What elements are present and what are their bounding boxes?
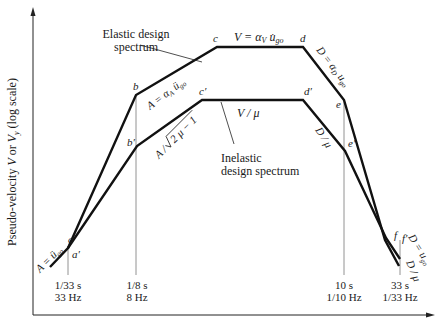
point-c: c [213, 32, 218, 44]
point-a-prime: a′ [72, 248, 81, 260]
period-1-33s: 1/33 s [55, 279, 82, 291]
y-axis-label: Pseudo-velocity V or Vy (log scale) [5, 78, 21, 246]
svg-text:A /: A / [151, 143, 170, 162]
point-d: d [300, 32, 306, 44]
period-1-8s: 1/8 s [126, 279, 147, 291]
label-ground-acceleration: A = ügo [32, 243, 66, 277]
label-elastic-acceleration: A = αA ügo [143, 75, 188, 114]
period-33s: 33 s [391, 279, 409, 291]
point-b: b [133, 80, 139, 92]
label-elastic-velocity: V = αV u̇go [234, 30, 283, 45]
x-axis-arrow-icon [426, 313, 435, 318]
point-e-prime: e′ [348, 137, 356, 149]
freq-1-33hz: 1/33 Hz [382, 291, 417, 303]
period-markers: 1/33 s 33 Hz 1/8 s 8 Hz 10 s 1/10 Hz 33 … [55, 279, 418, 303]
point-e: e [336, 98, 341, 110]
inelastic-callout-line2: design spectrum [221, 164, 300, 178]
freq-33hz: 33 Hz [55, 291, 82, 303]
label-inelastic-velocity: V / μ [237, 106, 259, 120]
period-10s: 10 s [335, 279, 353, 291]
freq-8hz: 8 Hz [126, 291, 147, 303]
point-d-prime: d′ [304, 85, 313, 97]
design-spectrum-diagram: Pseudo-velocity V or Vy (log scale) Elas… [0, 0, 440, 324]
freq-1-10hz: 1/10 Hz [326, 291, 361, 303]
elastic-callout-line1: Elastic design [103, 27, 170, 41]
label-inelastic-displacement: D / μ [313, 124, 336, 150]
point-a: a [68, 233, 74, 245]
elastic-callout-line2: spectrum [114, 40, 159, 54]
point-f: f [394, 229, 399, 241]
y-axis-arrow-icon [31, 7, 36, 16]
svg-text:2 μ − 1: 2 μ − 1 [167, 114, 198, 145]
point-c-prime: c′ [199, 85, 207, 97]
point-b-prime: b′ [127, 136, 136, 148]
inelastic-callout-leader [221, 102, 234, 144]
inelastic-callout-line1: Inelastic [221, 151, 262, 165]
